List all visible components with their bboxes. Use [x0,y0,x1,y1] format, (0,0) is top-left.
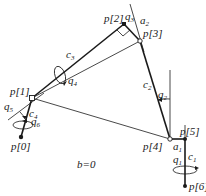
kinematic-chain-diagram: p[0] p[1] p[2] p[3] p[4] p[5] p[6] c1 c2… [0,0,206,196]
label-c1: c1 [188,150,196,164]
label-p4: p[4] [142,140,163,152]
label-q5: q5 [4,100,14,114]
label-a2: a2 [140,14,150,28]
label-p5: p[5] [179,125,200,137]
link-c3 [32,24,124,98]
label-p0: p[0] [10,140,31,152]
point-p1 [30,96,35,101]
reference-line-p1-p4 [32,98,170,139]
label-p2: p[2] [103,12,124,24]
label-p1: p[1] [9,85,30,97]
point-p5 [183,137,187,141]
link-c2 [140,41,170,139]
link-a2 [124,24,140,41]
point-p4 [168,137,172,141]
label-q6: q6 [31,115,41,129]
label-q4: q4 [68,74,78,88]
reference-line-p1-p3 [32,41,140,98]
point-p0 [19,135,23,139]
label-q3: q3 [125,10,135,24]
label-p6: p[6] [188,180,206,192]
label-c2: c2 [143,78,152,92]
label-a1: a1 [173,140,182,154]
caption-b-equals-0: b=0 [77,158,96,170]
label-q1: q1 [173,153,182,167]
q5-axis-line [8,93,44,120]
point-p6 [183,184,187,188]
right-angle-marker [117,30,130,36]
label-q2: q2 [158,88,168,102]
label-c3: c3 [66,48,75,62]
label-p3: p[3] [142,27,163,39]
point-p3 [138,39,142,43]
